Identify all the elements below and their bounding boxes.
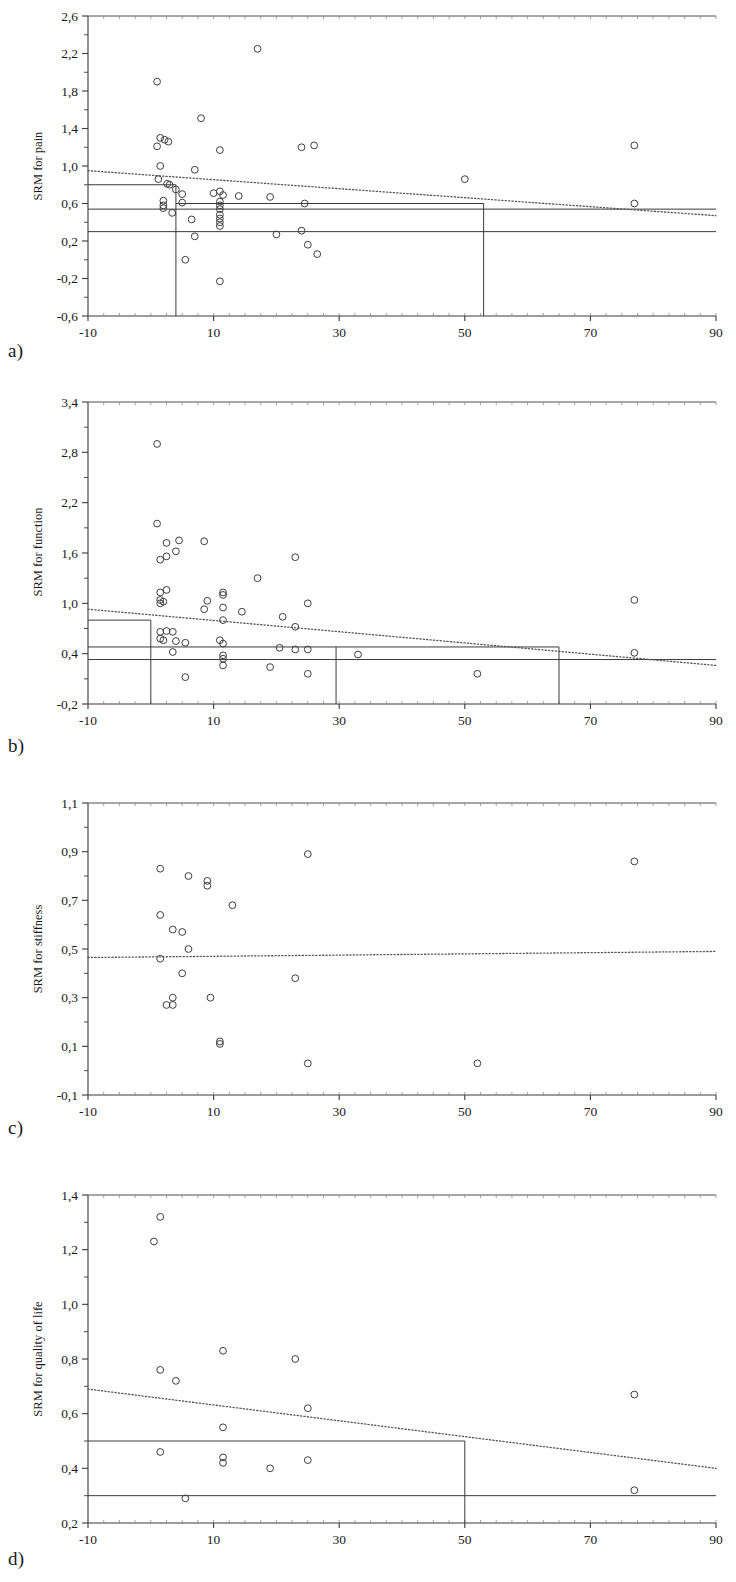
subgroup-markers (151, 620, 559, 704)
panel-a: -101030507090-0,6-0,20,20,61,01,41,82,22… (0, 0, 736, 340)
x-tick-label: 50 (458, 1104, 472, 1117)
data-point (204, 882, 211, 889)
axes-frame (88, 1195, 716, 1523)
data-point (157, 163, 164, 170)
y-tick-label: 0,3 (61, 990, 78, 1005)
data-point (210, 190, 217, 197)
y-tick-label: 0,1 (61, 1039, 78, 1054)
x-tick-label: -10 (79, 713, 97, 728)
trend-line (88, 609, 716, 665)
y-tick-label: 0,2 (61, 1516, 78, 1531)
data-point (474, 670, 481, 677)
y-tick-label: 0,6 (61, 1406, 78, 1421)
data-point (179, 199, 186, 206)
data-point (154, 143, 161, 150)
data-point (631, 597, 638, 604)
data-point (461, 176, 468, 183)
data-point (220, 617, 227, 624)
x-tick-label: 10 (207, 1104, 221, 1117)
data-point (292, 623, 299, 630)
x-ticks: -101030507090 (79, 1095, 723, 1117)
data-point (154, 520, 161, 527)
data-point (220, 604, 227, 611)
data-points (154, 441, 638, 681)
data-point (185, 873, 192, 880)
data-point (157, 556, 164, 563)
y-tick-label: 0,7 (61, 893, 78, 908)
data-point (157, 589, 164, 596)
top-minor-ticks (88, 1195, 716, 1198)
x-tick-label: 50 (458, 1532, 472, 1547)
x-tick-label: 10 (207, 325, 221, 340)
pooled-estimate-lines (88, 185, 716, 232)
data-point (173, 548, 180, 555)
data-point (304, 600, 311, 607)
y-tick-label: -0,2 (57, 697, 78, 712)
y-tick-label: 1,0 (61, 1297, 78, 1312)
data-point (279, 613, 286, 620)
data-point (304, 1457, 311, 1464)
data-point (631, 858, 638, 865)
data-point (154, 441, 161, 448)
x-minor-ticks (88, 701, 716, 704)
data-point (631, 1487, 638, 1494)
x-tick-label: 30 (332, 1532, 346, 1547)
y-tick-label: 0,8 (61, 1352, 78, 1367)
data-point (204, 597, 211, 604)
data-point (163, 553, 170, 560)
x-tick-label: 70 (584, 325, 598, 340)
data-point (631, 142, 638, 149)
panel-letter-b: b) (8, 735, 24, 757)
data-point (179, 191, 186, 198)
y-tick-label: 2,2 (61, 495, 78, 510)
data-point (238, 608, 245, 615)
data-point (157, 134, 164, 141)
chart-c: -101030507090-0,10,10,30,50,70,91,1SRM f… (0, 785, 736, 1117)
data-point (163, 628, 170, 635)
top-minor-ticks (88, 402, 716, 405)
data-point (631, 649, 638, 656)
data-point (298, 227, 305, 234)
data-point (254, 45, 261, 52)
data-point (176, 537, 183, 544)
y-tick-label: 0,5 (61, 942, 78, 957)
data-point (169, 628, 176, 635)
x-minor-ticks (88, 313, 716, 316)
x-tick-label: -10 (79, 1104, 97, 1117)
x-tick-label: 10 (207, 1532, 221, 1547)
data-point (304, 241, 311, 248)
y-ticks: -0,10,10,30,50,70,91,1 (57, 796, 88, 1103)
data-point (207, 994, 214, 1001)
x-ticks: -101030507090 (79, 704, 723, 728)
data-point (169, 649, 176, 656)
y-tick-label: 0,4 (61, 1461, 78, 1476)
data-point (182, 256, 189, 263)
y-tick-label: 1,4 (61, 121, 78, 136)
data-point (304, 1060, 311, 1067)
top-minor-ticks (88, 16, 716, 19)
y-tick-label: -0,2 (57, 271, 78, 286)
data-point (182, 674, 189, 681)
data-point (267, 1465, 274, 1472)
x-tick-label: 70 (584, 713, 598, 728)
data-point (220, 662, 227, 669)
x-ticks: -101030507090 (79, 1523, 723, 1547)
x-tick-label: 90 (709, 1104, 723, 1117)
x-tick-label: -10 (79, 325, 97, 340)
axes-frame (88, 402, 716, 704)
x-tick-label: 90 (709, 1532, 723, 1547)
y-tick-label: -0,1 (57, 1088, 78, 1103)
data-point (298, 144, 305, 151)
data-point (169, 994, 176, 1001)
y-axis-title: SRM for quality of life (31, 1301, 45, 1417)
y-tick-label: 1,6 (61, 546, 78, 561)
data-points (154, 45, 638, 284)
y-axis-title: SRM for pain (31, 131, 45, 201)
data-point (179, 929, 186, 936)
data-point (304, 851, 311, 858)
data-point (220, 1424, 227, 1431)
data-point (276, 644, 283, 651)
axes-frame (88, 803, 716, 1095)
y-tick-label: 1,2 (61, 1242, 78, 1257)
data-point (169, 209, 176, 216)
